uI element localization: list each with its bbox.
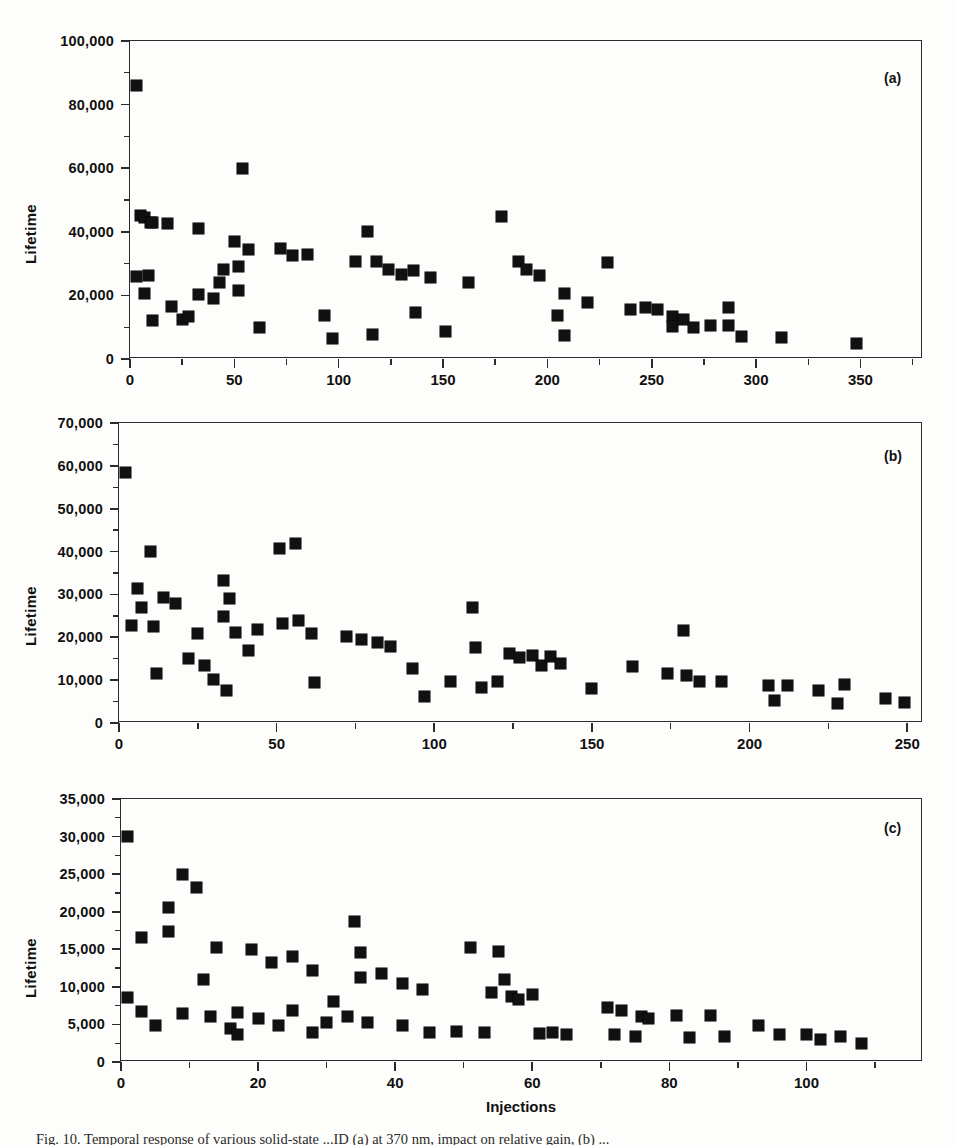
data-point	[813, 685, 824, 696]
data-point	[832, 698, 843, 709]
x-tick-major	[118, 723, 120, 732]
data-point	[136, 1006, 147, 1017]
x-tick-major	[860, 359, 862, 368]
data-point	[719, 1031, 730, 1042]
data-point	[667, 311, 678, 322]
data-point	[122, 831, 133, 842]
y-tick-major	[112, 948, 121, 950]
data-point	[376, 968, 387, 979]
data-point	[774, 1029, 785, 1040]
panel-a-y-axis-title: Lifetime	[22, 204, 39, 264]
panel-b-plot-frame: 010,00020,00030,00040,00050,00060,00070,…	[118, 422, 922, 722]
y-tick-minor	[115, 892, 121, 893]
data-point	[486, 987, 497, 998]
data-point	[678, 625, 689, 636]
y-tick-label: 0	[95, 715, 103, 731]
data-point	[367, 329, 378, 340]
data-point	[643, 1013, 654, 1024]
data-point	[150, 1020, 161, 1031]
y-tick-major	[112, 836, 121, 838]
x-tick-label: 100	[326, 371, 351, 388]
data-point	[274, 543, 285, 554]
y-tick-major	[110, 636, 119, 638]
data-point	[851, 338, 862, 349]
data-point	[681, 670, 692, 681]
x-tick-label: 0	[115, 735, 123, 752]
x-tick-major	[394, 1062, 396, 1071]
data-point	[445, 676, 456, 687]
data-point	[327, 333, 338, 344]
y-tick-minor	[113, 572, 119, 573]
x-tick-minor	[494, 359, 495, 365]
y-tick-major	[112, 798, 121, 800]
data-point	[616, 1005, 627, 1016]
y-tick-major	[112, 1024, 121, 1026]
x-tick-major	[669, 1062, 671, 1071]
data-point	[521, 264, 532, 275]
data-point	[246, 944, 257, 955]
y-tick-label: 40,000	[57, 544, 103, 560]
data-point	[193, 289, 204, 300]
data-point	[224, 593, 235, 604]
data-point	[534, 270, 545, 281]
data-point	[350, 256, 361, 267]
data-point	[465, 942, 476, 953]
x-axis-title: Injections	[486, 1098, 556, 1115]
x-tick-major	[749, 723, 751, 732]
data-point	[723, 320, 734, 331]
data-point	[716, 676, 727, 687]
data-point	[237, 163, 248, 174]
data-point	[254, 322, 265, 333]
data-point	[230, 627, 241, 638]
y-tick-major	[112, 873, 121, 875]
data-point	[290, 538, 301, 549]
data-point	[815, 1034, 826, 1045]
data-point	[273, 1020, 284, 1031]
x-tick-label: 80	[661, 1074, 678, 1091]
data-point	[407, 663, 418, 674]
data-point	[424, 1027, 435, 1038]
x-tick-minor	[355, 723, 356, 729]
data-point	[321, 1017, 332, 1028]
y-tick-label: 20,000	[68, 287, 114, 303]
y-tick-label: 20,000	[57, 629, 103, 645]
data-point	[476, 682, 487, 693]
data-point	[372, 637, 383, 648]
x-tick-label: 50	[268, 735, 285, 752]
data-point	[218, 611, 229, 622]
y-tick-label: 30,000	[59, 829, 105, 845]
panel-b-plot-area: 010,00020,00030,00040,00050,00060,00070,…	[119, 423, 921, 721]
y-tick-major	[110, 508, 119, 510]
y-tick-label: 100,000	[60, 33, 114, 49]
y-tick-label: 5,000	[68, 1016, 105, 1032]
x-tick-label: 200	[535, 371, 560, 388]
data-point	[275, 243, 286, 254]
data-point	[688, 322, 699, 333]
data-point	[671, 1010, 682, 1021]
data-point	[899, 697, 910, 708]
data-point	[198, 974, 209, 985]
y-tick-label: 30,000	[57, 586, 103, 602]
data-point	[306, 628, 317, 639]
data-point	[355, 947, 366, 958]
data-point	[293, 615, 304, 626]
data-point	[769, 695, 780, 706]
y-tick-minor	[124, 263, 130, 264]
data-point	[177, 1008, 188, 1019]
y-tick-label: 40,000	[68, 224, 114, 240]
data-point	[208, 293, 219, 304]
data-point	[602, 257, 613, 268]
data-point	[148, 621, 159, 632]
panel-b-tag: (b)	[884, 448, 902, 464]
data-point	[417, 984, 428, 995]
x-tick-minor	[197, 723, 198, 729]
y-tick-major	[121, 295, 130, 297]
data-point	[397, 978, 408, 989]
data-point	[211, 942, 222, 953]
data-point	[385, 641, 396, 652]
data-point	[763, 680, 774, 691]
y-tick-label: 60,000	[68, 160, 114, 176]
panel-b-y-axis-title: Lifetime	[22, 586, 39, 646]
y-tick-minor	[115, 1043, 121, 1044]
data-point	[678, 314, 689, 325]
